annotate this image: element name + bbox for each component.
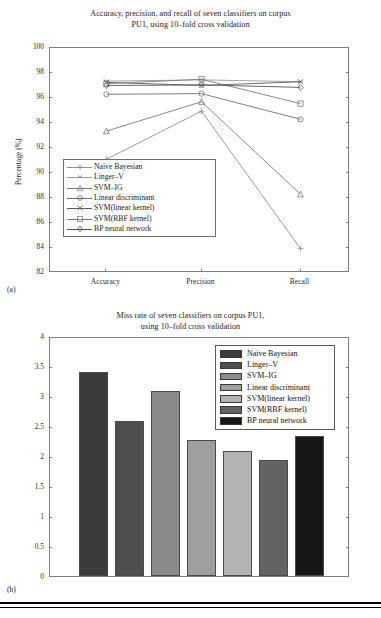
panel-a-legend-item[interactable]: BP neural network [67, 224, 212, 234]
panel-b-y-tick-label: 1 [18, 512, 44, 521]
panel-a-legend-symbol [67, 214, 92, 224]
panel-a-title: Accuracy, precision, and recall of seven… [20, 9, 361, 30]
panel-b-bar [151, 391, 180, 576]
panel-a-y-tick-label: 92 [20, 142, 44, 151]
panel-a-x-tick-label: Accuracy [65, 277, 145, 286]
panel-a-legend-label: Naïve Bayesian [92, 162, 142, 172]
panel-a-x-tick-mark [300, 269, 301, 272]
panel-b-legend-label: SVM–IG [242, 371, 277, 381]
panel-b-legend-item[interactable]: SVM(linear kernel) [220, 393, 330, 404]
panel-b-y-tick-mark [49, 487, 52, 488]
panel-b-legend-label: SVM(linear kernel) [242, 394, 310, 404]
panel-b-y-tick-label: 0 [18, 572, 44, 581]
panel-b-y-tick-mark [346, 457, 349, 458]
panel-b-legend-label: Linear discriminant [242, 383, 310, 393]
panel-b-bar-chart: Miss rate of seven classifiers on corpus… [0, 300, 381, 590]
panel-b-y-tick-label: 3.5 [18, 362, 44, 371]
panel-a-legend-symbol [67, 172, 92, 182]
panel-a-legend-item[interactable]: SVM(linear kernel) [67, 203, 212, 213]
panel-a-y-tick-mark [49, 72, 52, 73]
panel-a-legend-marker-plus-icon [74, 162, 86, 172]
panel-a-y-tick-label: 96 [20, 92, 44, 101]
panel-b-y-tick-mark [49, 517, 52, 518]
panel-b-title-line1: Miss rate of seven classifiers on corpus… [20, 311, 361, 322]
panel-a-y-tick-label: 98 [20, 67, 44, 76]
panel-a-title-line2: PU1, using 10–fold cross validation [20, 20, 361, 31]
figure-container: Accuracy, precision, and recall of seven… [0, 0, 381, 618]
panel-a-y-tick-mark [49, 97, 52, 98]
panel-b-y-tick-mark [346, 367, 349, 368]
panel-a-y-tick-mark [49, 122, 52, 123]
panel-b-y-tick-mark [346, 397, 349, 398]
panel-a-legend-item[interactable]: Linger–V [67, 172, 212, 182]
panel-a-y-tick-mark [346, 122, 349, 123]
panel-a-x-tick-label: Recall [260, 277, 340, 286]
panel-b-y-tick-mark [346, 487, 349, 488]
panel-b-y-tick-mark [49, 397, 52, 398]
panel-b-y-tick-mark [49, 457, 52, 458]
panel-a-x-tick-mark [105, 269, 106, 272]
panel-a-line-chart: Accuracy, precision, and recall of seven… [0, 0, 381, 300]
panel-b-caption: (b) [7, 585, 16, 594]
panel-b-legend-item[interactable]: SVM(RBF kernel) [220, 404, 330, 415]
panel-b-y-tick-mark [49, 547, 52, 548]
panel-a-y-tick-mark [346, 72, 349, 73]
panel-b-y-tick-mark [346, 547, 349, 548]
panel-b-y-tick-label: 2 [18, 452, 44, 461]
panel-a-legend-marker-diamond-icon [74, 224, 86, 234]
panel-a-legend-item[interactable]: Naïve Bayesian [67, 162, 212, 172]
panel-a-caption: (a) [7, 285, 15, 294]
panel-a-legend-item[interactable]: Linear discriminant [67, 193, 212, 203]
panel-a-legend-marker-triangle-icon [74, 183, 86, 193]
panel-b-legend-item[interactable]: Linger–V [220, 360, 330, 371]
panel-b-legend-item[interactable]: Naive Bayesian [220, 349, 330, 360]
panel-b-title: Miss rate of seven classifiers on corpus… [20, 311, 361, 332]
panel-a-series-line [106, 94, 300, 120]
panel-b-y-tick-label: 0.5 [18, 542, 44, 551]
panel-b-legend-swatch [220, 362, 242, 370]
panel-a-data-point [198, 108, 204, 114]
panel-a-y-tick-label: 86 [20, 217, 44, 226]
panel-b-legend-label: BP neural network [242, 416, 307, 426]
panel-b-legend-swatch [220, 417, 242, 425]
panel-b-legend-label: Linger–V [242, 360, 278, 370]
panel-a-y-tick-mark [346, 197, 349, 198]
panel-b-y-tick-mark [346, 517, 349, 518]
panel-a-legend-item[interactable]: SVM–IG [67, 183, 212, 193]
footer-rule-thin [0, 607, 381, 608]
panel-a-legend-label: SVM(RBF kernel) [92, 214, 151, 224]
panel-a-y-tick-label: 82 [20, 267, 44, 276]
panel-a-y-tick-label: 90 [20, 167, 44, 176]
panel-b-y-tick-label: 3 [18, 392, 44, 401]
panel-a-legend-marker-x-icon [74, 203, 86, 213]
panel-b-y-tick-mark [49, 427, 52, 428]
panel-b-legend-item[interactable]: Linear discriminant [220, 382, 330, 393]
panel-a-y-tick-label: 88 [20, 192, 44, 201]
panel-a-legend-item[interactable]: SVM(RBF kernel) [67, 213, 212, 223]
panel-a-y-tick-mark [49, 147, 52, 148]
panel-a-y-tick-mark [346, 172, 349, 173]
panel-a-y-tick-mark [49, 172, 52, 173]
panel-a-legend-symbol [67, 203, 92, 213]
panel-a-legend-label: BP neural network [92, 224, 151, 234]
panel-b-bar [115, 421, 144, 576]
panel-b-y-tick-mark [49, 367, 52, 368]
panel-a-legend-symbol [67, 162, 92, 172]
panel-b-legend-item[interactable]: SVM–IG [220, 371, 330, 382]
panel-b-legend-swatch [220, 350, 242, 358]
panel-a-y-tick-mark [49, 247, 52, 248]
panel-b-y-tick-label: 2.5 [18, 422, 44, 431]
panel-b-legend-swatch [220, 395, 242, 403]
panel-a-y-tick-mark [346, 147, 349, 148]
panel-b-legend-item[interactable]: BP neural network [220, 416, 330, 427]
footer-rule-thick [0, 602, 381, 604]
panel-a-legend-label: SVM–IG [92, 183, 123, 193]
panel-a-legend-marker-square-icon [74, 214, 86, 224]
panel-a-y-tick-mark [346, 97, 349, 98]
panel-b-legend: Naive BayesianLinger–VSVM–IGLinear discr… [215, 345, 335, 430]
panel-b-bar [79, 372, 108, 576]
panel-b-y-tick-mark [346, 427, 349, 428]
panel-b-bar [223, 451, 252, 576]
panel-a-legend: Naïve BayesianLinger–VSVM–IGLinear discr… [63, 159, 216, 237]
panel-a-y-tick-label: 100 [20, 42, 44, 51]
